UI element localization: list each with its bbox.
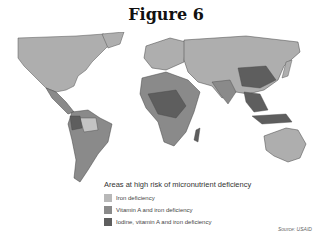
legend-swatch-iron: [104, 194, 112, 202]
legend-swatch-iodine-vitamin-a-iron: [104, 218, 112, 226]
legend-swatch-vitamin-a-iron: [104, 206, 112, 214]
legend-title: Areas at high risk of micronutrient defi…: [104, 180, 284, 189]
legend-item-iodine-vitamin-a-iron: Iodine, vitamin A and iron deficiency: [104, 216, 284, 228]
legend-item-iron: Iron deficiency: [104, 192, 284, 204]
legend-label: Iron deficiency: [116, 195, 155, 201]
legend-label: Vitamin A and iron deficiency: [116, 207, 193, 213]
legend-item-vitamin-a-iron: Vitamin A and iron deficiency: [104, 204, 284, 216]
map-legend: Areas at high risk of micronutrient defi…: [104, 180, 284, 228]
source-credit: Source: USAID: [278, 226, 312, 232]
figure-title: Figure 6: [0, 5, 332, 24]
south-america-iodine: [70, 116, 82, 130]
legend-label: Iodine, vitamin A and iron deficiency: [116, 219, 211, 225]
world-map: [16, 32, 314, 188]
